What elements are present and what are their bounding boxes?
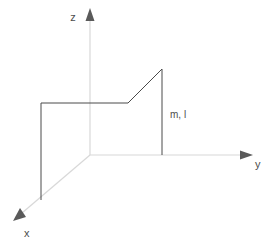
z-axis-arrowhead-icon bbox=[86, 8, 95, 21]
x-axis: x bbox=[13, 155, 90, 239]
figure-canvas: z y x m, l bbox=[0, 0, 276, 244]
z-axis: z bbox=[70, 8, 94, 155]
y-axis-label: y bbox=[255, 158, 261, 170]
coordinate-system-diagram: z y x m, l bbox=[0, 0, 276, 244]
plate-diagonal-ramp-edge bbox=[128, 69, 162, 103]
mass-length-label: m, l bbox=[170, 109, 186, 120]
bent-plate-shape bbox=[41, 69, 162, 200]
x-axis-arrowhead-icon bbox=[13, 208, 26, 221]
axes-group: z y x bbox=[13, 8, 261, 239]
y-axis-arrowhead-icon bbox=[240, 151, 253, 160]
x-axis-label: x bbox=[24, 227, 30, 239]
z-axis-label: z bbox=[70, 11, 76, 23]
y-axis: y bbox=[90, 151, 261, 171]
x-axis-line bbox=[22, 155, 90, 213]
